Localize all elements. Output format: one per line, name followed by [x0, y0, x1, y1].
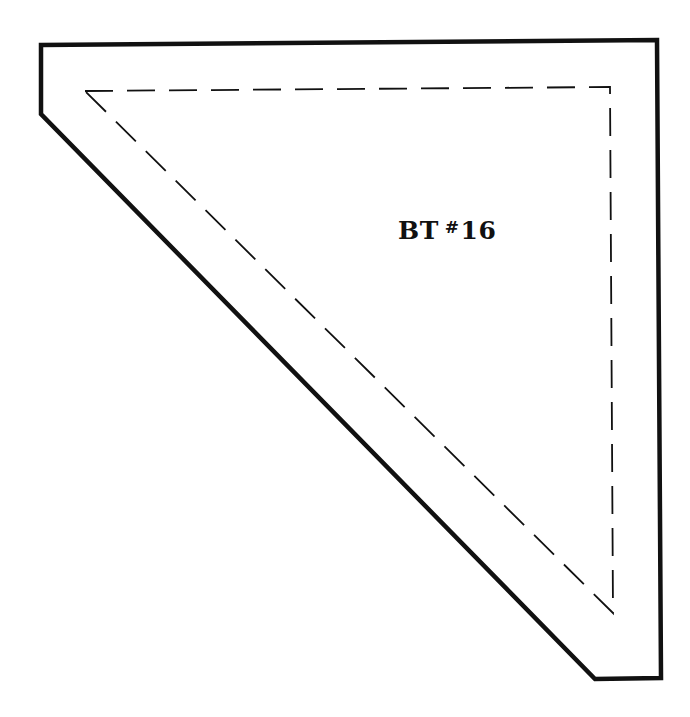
- inner-seam-line: [85, 87, 613, 613]
- label-number: 16: [460, 216, 496, 245]
- label-prefix: BT: [398, 216, 439, 245]
- outer-cutting-line: [41, 40, 661, 679]
- label-hash: #: [445, 217, 460, 237]
- template-label: BT#16: [398, 216, 496, 245]
- template-diagram: [0, 0, 690, 717]
